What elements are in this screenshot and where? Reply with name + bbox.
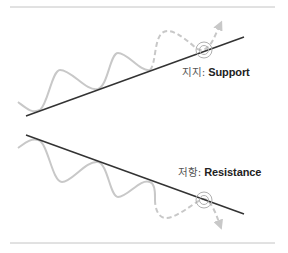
support-label: 지지: Support <box>182 64 250 79</box>
resistance-label-korean: 저항: <box>178 166 201 178</box>
resistance-label-english: Resistance <box>204 166 261 178</box>
support-price-wave <box>18 53 150 111</box>
support-resistance-diagram <box>0 0 288 253</box>
support-label-korean: 지지: <box>182 66 205 78</box>
resistance-breakdown-dashed <box>155 199 220 225</box>
resistance-label: 저항: Resistance <box>178 164 261 179</box>
resistance-price-wave <box>18 140 155 200</box>
support-label-english: Support <box>208 66 249 78</box>
